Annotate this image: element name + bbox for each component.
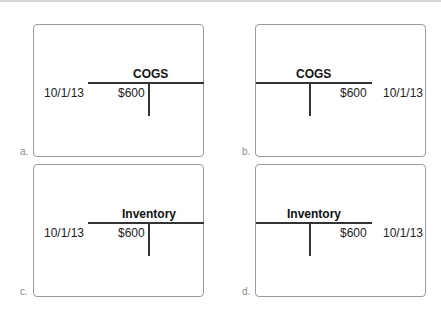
t-account-vertical-line: [148, 82, 150, 116]
option-letter: c.: [20, 286, 28, 297]
t-account-vertical-line: [148, 222, 150, 256]
entry-date: 10/1/13: [383, 86, 423, 100]
t-account-vertical-line: [309, 222, 311, 256]
entry-date: 10/1/13: [44, 226, 84, 240]
entry-date: 10/1/13: [44, 86, 84, 100]
t-account-box: Inventory 10/1/13 $600: [33, 164, 204, 297]
account-title: COGS: [133, 67, 168, 81]
entry-date: 10/1/13: [383, 226, 423, 240]
t-account-horizontal-line: [256, 222, 372, 224]
t-account-box: Inventory $600 10/1/13: [255, 164, 426, 297]
t-account-box: COGS 10/1/13 $600: [33, 24, 204, 157]
account-title: COGS: [296, 67, 331, 81]
entry-amount: $600: [118, 86, 145, 100]
entry-amount: $600: [340, 86, 367, 100]
t-account-vertical-line: [309, 82, 311, 116]
t-account-horizontal-line: [256, 82, 372, 84]
top-divider: [0, 0, 441, 2]
entry-amount: $600: [118, 226, 145, 240]
entry-amount: $600: [340, 226, 367, 240]
option-letter: a.: [20, 146, 28, 157]
option-letter: d.: [242, 286, 250, 297]
t-account-box: COGS $600 10/1/13: [255, 24, 426, 157]
t-account-horizontal-line: [88, 222, 204, 224]
account-title: Inventory: [122, 207, 176, 221]
t-account-horizontal-line: [88, 82, 204, 84]
account-title: Inventory: [287, 207, 341, 221]
option-letter: b.: [242, 146, 250, 157]
